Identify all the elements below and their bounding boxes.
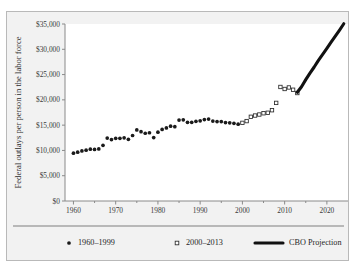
- y-axis-tick-labels: $0$5,000$10,000$15,000$20,000$25,000$30,…: [36, 20, 60, 206]
- data-point: [84, 148, 88, 152]
- data-point: [190, 121, 194, 125]
- data-point: [169, 124, 173, 128]
- legend-label: 2000–2013: [186, 238, 223, 247]
- x-tick-label: 2010: [277, 206, 292, 215]
- data-point: [101, 144, 105, 148]
- data-point: [76, 150, 80, 154]
- data-point: [80, 149, 84, 153]
- y-tick-label: $35,000: [36, 20, 60, 29]
- data-point: [291, 88, 294, 91]
- data-point: [122, 136, 126, 140]
- data-point: [262, 112, 265, 115]
- y-tick-label: $25,000: [36, 70, 60, 79]
- plot-area-background: [65, 24, 348, 201]
- data-point: [241, 121, 244, 124]
- data-point: [88, 147, 92, 151]
- data-point: [198, 119, 202, 123]
- data-point: [118, 136, 122, 140]
- figure-container: $0$5,000$10,000$15,000$20,000$25,000$30,…: [6, 11, 349, 261]
- data-point: [97, 147, 101, 151]
- legend-item: CBO Projection: [255, 238, 342, 247]
- data-point: [219, 120, 223, 124]
- chart-svg: $0$5,000$10,000$15,000$20,000$25,000$30,…: [7, 12, 350, 262]
- data-point: [283, 87, 286, 90]
- data-point: [287, 86, 290, 89]
- y-tick-label: $20,000: [36, 95, 60, 104]
- legend-marker-open-square-icon: [175, 241, 179, 245]
- legend-item: 2000–2013: [175, 238, 223, 247]
- x-tick-label: 1980: [151, 206, 166, 215]
- data-point: [173, 125, 177, 129]
- y-tick-label: $10,000: [36, 146, 60, 155]
- data-point: [249, 115, 252, 118]
- data-point: [232, 122, 236, 126]
- data-point: [245, 119, 248, 122]
- data-point: [279, 85, 282, 88]
- x-tick-label: 2020: [319, 206, 334, 215]
- y-axis-title: Federal outlays per person in the labor …: [13, 36, 23, 188]
- x-axis-ticks: [73, 201, 326, 205]
- y-tick-label: $0: [53, 197, 61, 206]
- data-point: [110, 138, 114, 142]
- data-point: [274, 101, 277, 104]
- chart-canvas: $0$5,000$10,000$15,000$20,000$25,000$30,…: [7, 12, 350, 262]
- legend-label: 1960–1999: [78, 238, 115, 247]
- legend-marker-filled-circle-icon: [67, 241, 71, 245]
- data-point: [228, 121, 232, 125]
- data-point: [143, 131, 147, 135]
- x-tick-label: 2000: [235, 206, 250, 215]
- y-tick-label: $30,000: [36, 45, 60, 54]
- data-point: [194, 120, 198, 124]
- data-point: [266, 111, 269, 114]
- x-axis-tick-labels: 1960197019801990200020102020: [66, 206, 335, 215]
- legend-item: 1960–1999: [67, 238, 115, 247]
- data-point: [270, 109, 273, 112]
- x-tick-label: 1970: [108, 206, 123, 215]
- data-point: [207, 117, 211, 121]
- data-point: [93, 148, 97, 152]
- y-tick-label: $15,000: [36, 121, 60, 130]
- data-point: [131, 134, 135, 138]
- data-point: [258, 113, 261, 116]
- data-point: [181, 118, 185, 122]
- data-point: [236, 122, 240, 126]
- x-tick-label: 1990: [193, 206, 208, 215]
- data-point: [224, 121, 228, 125]
- data-point: [160, 128, 164, 132]
- y-tick-label: $5,000: [40, 171, 61, 180]
- data-point: [156, 130, 160, 134]
- data-point: [253, 114, 256, 117]
- data-point: [72, 151, 76, 155]
- x-tick-label: 1960: [66, 206, 81, 215]
- data-point: [127, 137, 131, 141]
- data-point: [203, 118, 207, 122]
- chart-legend: 1960–19992000–2013CBO Projection: [67, 238, 341, 247]
- data-point: [211, 119, 215, 123]
- data-point: [139, 130, 143, 134]
- data-point: [105, 136, 109, 140]
- data-point: [177, 118, 181, 122]
- data-point: [215, 120, 219, 124]
- data-point: [152, 136, 156, 140]
- data-point: [114, 136, 118, 140]
- data-point: [165, 126, 169, 130]
- data-point: [148, 131, 152, 135]
- data-point: [186, 121, 190, 125]
- data-point: [135, 128, 139, 132]
- legend-label: CBO Projection: [289, 238, 342, 247]
